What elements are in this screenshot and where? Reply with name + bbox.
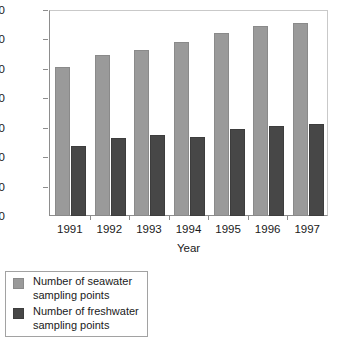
y-tick-label-6000: 6 000	[0, 121, 5, 135]
bar-group-1995	[214, 11, 245, 216]
y-tick-label-2000: 2 000	[0, 180, 5, 194]
y-tick-label-4000: 4 000	[0, 150, 5, 164]
bar-freshwater-1995	[230, 129, 245, 216]
bar-seawater-1992	[95, 55, 110, 216]
y-tick-label-12000: 12 000	[0, 32, 5, 46]
bar-seawater-1991	[55, 67, 70, 216]
x-tick-mark-4	[208, 216, 209, 220]
bar-seawater-1994	[174, 42, 189, 216]
y-tick-mark-8000	[43, 98, 48, 99]
bar-seawater-1997	[293, 23, 308, 216]
bar-freshwater-1991	[71, 146, 86, 216]
bar-seawater-1995	[214, 33, 229, 216]
bars-layer	[50, 11, 327, 216]
x-tick-mark-2	[129, 216, 130, 220]
chart-legend: Number of seawater sampling points Numbe…	[5, 271, 148, 337]
y-tick-label-14000: 14 000	[0, 3, 5, 17]
y-tick-label-0: 0	[0, 209, 5, 223]
bar-freshwater-1993	[150, 135, 165, 216]
y-tick-label-10000: 10 000	[0, 62, 5, 76]
x-axis-title: Year	[49, 241, 328, 255]
y-tick-mark-14000	[43, 10, 48, 11]
bar-freshwater-1997	[309, 124, 324, 216]
y-tick-mark-12000	[43, 39, 48, 40]
legend-label-seawater: Number of seawater sampling points	[33, 275, 145, 302]
x-tick-label-1997: 1997	[282, 222, 332, 236]
x-tick-mark-1	[90, 216, 91, 220]
legend-label-seawater-line1: Number of seawater	[33, 275, 145, 289]
y-tick-mark-2000	[43, 187, 48, 188]
bar-group-1991	[55, 11, 86, 216]
bar-freshwater-1994	[190, 137, 205, 216]
bar-freshwater-1992	[111, 138, 126, 216]
bar-group-1997	[293, 11, 324, 216]
bar-seawater-1996	[253, 26, 268, 216]
bar-group-1996	[253, 11, 284, 216]
legend-label-freshwater: Number of freshwater sampling points	[33, 305, 145, 332]
legend-label-seawater-line2: sampling points	[33, 289, 145, 303]
bar-seawater-1993	[134, 50, 149, 216]
legend-item-freshwater: Number of freshwater sampling points	[13, 306, 145, 334]
freshwater-swatch-icon	[13, 308, 24, 319]
legend-item-seawater: Number of seawater sampling points	[13, 276, 145, 304]
y-tick-label-8000: 8 000	[0, 91, 5, 105]
bar-group-1994	[174, 11, 205, 216]
bar-chart: 14 000 12 000 10 000 8 000 6 000 4 000 2…	[0, 0, 338, 350]
x-tick-mark-6	[287, 216, 288, 220]
legend-label-freshwater-line2: sampling points	[33, 319, 145, 333]
y-tick-mark-4000	[43, 157, 48, 158]
y-tick-mark-6000	[43, 128, 48, 129]
x-tick-mark-3	[169, 216, 170, 220]
y-tick-mark-10000	[43, 69, 48, 70]
bar-group-1992	[95, 11, 126, 216]
bar-freshwater-1996	[269, 126, 284, 216]
legend-label-freshwater-line1: Number of freshwater	[33, 305, 145, 319]
seawater-swatch-icon	[13, 278, 24, 289]
x-tick-mark-5	[248, 216, 249, 220]
bar-group-1993	[134, 11, 165, 216]
